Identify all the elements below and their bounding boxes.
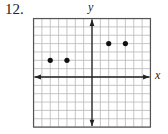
data-point <box>123 41 128 46</box>
x-arrow-left-icon <box>35 75 41 80</box>
x-arrow-right-icon <box>143 75 149 80</box>
data-point <box>106 41 111 46</box>
data-point <box>64 58 69 63</box>
coordinate-plane <box>0 0 168 134</box>
y-arrow-down-icon <box>90 120 95 126</box>
data-point <box>48 58 53 63</box>
y-arrow-up-icon <box>90 20 95 26</box>
